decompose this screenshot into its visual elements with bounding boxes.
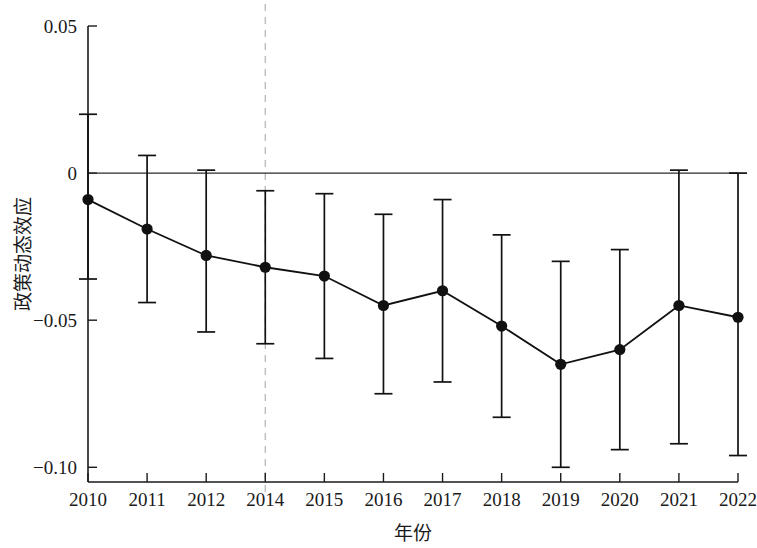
x-tick-label: 2010 — [69, 489, 107, 510]
y-tick-label: −0.05 — [33, 310, 77, 331]
x-tick-label: 2022 — [719, 489, 757, 510]
data-point-marker — [201, 250, 212, 261]
series-line — [88, 200, 738, 365]
data-point-marker — [82, 194, 93, 205]
x-tick-label: 2016 — [364, 489, 402, 510]
x-tick-label: 2021 — [660, 489, 698, 510]
x-tick-label: 2020 — [601, 489, 639, 510]
y-axis-title: 政策动态效应 — [13, 197, 34, 311]
data-point-marker — [141, 223, 152, 234]
y-tick-label: −0.10 — [33, 457, 77, 478]
chart-canvas: 0.050−0.05−0.102010201120122014201520162… — [0, 0, 757, 548]
data-point-marker — [614, 344, 625, 355]
x-tick-label: 2011 — [128, 489, 165, 510]
x-axis-title: 年份 — [394, 523, 432, 544]
data-point-marker — [260, 262, 271, 273]
x-tick-label: 2018 — [483, 489, 521, 510]
data-point-marker — [378, 300, 389, 311]
data-point-marker — [437, 285, 448, 296]
y-tick-label: 0 — [68, 163, 78, 184]
data-point-marker — [555, 359, 566, 370]
y-tick-label: 0.05 — [44, 16, 77, 37]
data-point-marker — [319, 270, 330, 281]
x-tick-label: 2012 — [187, 489, 225, 510]
data-point-marker — [496, 320, 507, 331]
x-tick-label: 2015 — [305, 489, 343, 510]
x-tick-label: 2019 — [542, 489, 580, 510]
x-tick-label: 2017 — [424, 489, 462, 510]
data-point-marker — [732, 312, 743, 323]
dynamic-effect-chart: 0.050−0.05−0.102010201120122014201520162… — [0, 0, 757, 548]
data-point-marker — [673, 300, 684, 311]
x-tick-label: 2014 — [246, 489, 285, 510]
